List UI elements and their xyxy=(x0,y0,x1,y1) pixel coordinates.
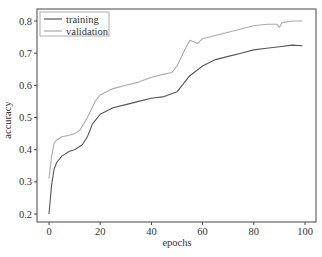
x-tick-label: 0 xyxy=(46,226,51,237)
y-tick-label: 0.4 xyxy=(19,144,33,155)
x-tick-label: 40 xyxy=(146,226,157,237)
y-tick-label: 0.2 xyxy=(19,209,32,220)
y-tick-label: 0.3 xyxy=(19,176,32,187)
y-tick-label: 0.7 xyxy=(19,48,32,59)
x-tick-label: 60 xyxy=(197,226,208,237)
y-tick-label: 0.6 xyxy=(19,80,32,91)
chart-background xyxy=(0,0,322,257)
legend: training validation xyxy=(40,12,109,37)
x-tick-label: 20 xyxy=(95,226,106,237)
x-tick-label: 100 xyxy=(297,226,313,237)
x-axis-label: epochs xyxy=(162,237,191,248)
x-tick-label: 80 xyxy=(249,226,260,237)
accuracy-line-chart: 020406080100 0.20.30.40.50.60.70.8 epoch… xyxy=(0,0,322,257)
legend-label-validation: validation xyxy=(66,26,109,37)
y-axis-label: accuracy xyxy=(2,101,13,139)
y-tick-label: 0.5 xyxy=(19,112,32,123)
legend-label-training: training xyxy=(66,14,99,25)
y-tick-label: 0.8 xyxy=(19,16,32,27)
